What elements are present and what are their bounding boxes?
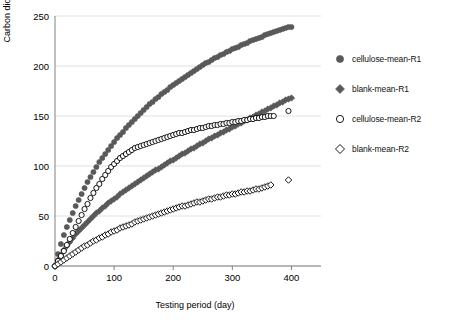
legend-label: cellulose-mean-R2: [352, 114, 421, 124]
x-tick-label: 0: [52, 272, 57, 283]
data-point: [61, 232, 66, 237]
x-axis-title: Testing period (day): [95, 300, 295, 310]
filled-diamond-icon: [332, 81, 348, 97]
y-axis-title: Carbon dioxide evolved (mg): [2, 0, 12, 60]
x-tick-label: 200: [165, 272, 181, 283]
data-point: [73, 224, 78, 229]
open-circle-icon: [332, 111, 348, 127]
data-point: [91, 190, 96, 195]
data-point: [70, 230, 75, 235]
data-point: [67, 217, 72, 222]
x-tick-label: 100: [106, 272, 122, 283]
y-tick-label: 200: [33, 61, 49, 72]
series-cellulose-mean-R1: [52, 24, 294, 268]
data-point: [64, 242, 69, 247]
data-point: [285, 177, 292, 184]
legend-item: blank-mean-R1: [332, 74, 472, 104]
legend-item: cellulose-mean-R2: [332, 104, 472, 134]
data-point: [85, 179, 90, 184]
data-point: [336, 85, 345, 94]
legend-label: blank-mean-R2: [352, 144, 409, 154]
data-point: [79, 212, 84, 217]
x-tick-label: 400: [284, 272, 300, 283]
chart-container: 0501001502002500100200300400 Carbon diox…: [0, 0, 476, 327]
data-point: [58, 241, 63, 246]
data-point: [88, 195, 93, 200]
y-tick-label: 0: [44, 261, 49, 272]
data-point: [289, 24, 294, 29]
y-tick-label: 100: [33, 161, 49, 172]
x-tick-label: 300: [224, 272, 240, 283]
filled-circle-icon: [332, 51, 348, 67]
legend-item: cellulose-mean-R1: [332, 44, 472, 74]
open-diamond-icon: [332, 141, 348, 157]
data-point: [79, 191, 84, 196]
data-point: [85, 201, 90, 206]
data-point: [67, 236, 72, 241]
data-point: [64, 224, 69, 229]
chart-legend: cellulose-mean-R1blank-mean-R1cellulose-…: [332, 44, 472, 164]
data-point: [97, 181, 102, 186]
data-point: [61, 248, 66, 253]
data-point: [73, 203, 78, 208]
y-tick-label: 150: [33, 111, 49, 122]
data-point: [271, 113, 276, 118]
data-point: [88, 174, 93, 179]
legend-label: cellulose-mean-R1: [352, 54, 421, 64]
data-point: [76, 197, 81, 202]
data-point: [94, 164, 99, 169]
y-tick-label: 250: [33, 11, 49, 22]
data-point: [91, 169, 96, 174]
data-point: [336, 145, 345, 154]
data-point: [76, 218, 81, 223]
data-point: [70, 210, 75, 215]
data-point: [82, 206, 87, 211]
data-point: [82, 185, 87, 190]
data-point: [336, 115, 343, 122]
y-tick-label: 50: [38, 211, 49, 222]
legend-item: blank-mean-R2: [332, 134, 472, 164]
data-point: [286, 108, 291, 113]
data-point: [336, 55, 343, 62]
legend-label: blank-mean-R1: [352, 84, 409, 94]
